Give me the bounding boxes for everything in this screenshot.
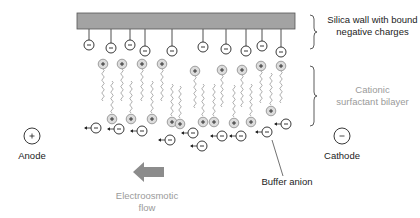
electrodes: [24, 128, 350, 144]
cationic-surfactant-head: [217, 65, 227, 75]
surfactant-tail: [213, 84, 215, 116]
surfactant-bilayer-brace: [310, 66, 317, 126]
surfactant-tail: [171, 84, 173, 116]
buffer-anion: [84, 123, 101, 133]
bound-negative-charge: [140, 46, 150, 56]
bound-negative-charge: [106, 43, 116, 53]
bound-negative-charge: [125, 40, 135, 50]
migration-arrow-head-icon: [181, 131, 184, 135]
bound-negative-charges: [84, 40, 286, 57]
buffer-anion: [158, 135, 175, 145]
cationic-surfactant-head: [276, 61, 286, 71]
cathode: [334, 128, 350, 144]
buffer-anion: [130, 126, 147, 136]
cationic-surfactant-head: [266, 106, 276, 116]
migration-arrow-head-icon: [274, 122, 277, 126]
buffer-anion-label: Buffer anion: [252, 176, 322, 188]
cationic-surfactant-head: [126, 114, 136, 124]
buffer-anion: [210, 131, 227, 141]
surfactant-tail: [194, 76, 196, 108]
surfactant-tail: [161, 69, 163, 101]
surfactant-tail: [241, 75, 243, 107]
surfactant-tail: [141, 69, 143, 101]
surfactant-tail: [260, 71, 262, 103]
silica-wall-label-line1: Silica wall with bound: [325, 14, 420, 26]
cationic-surfactant-head: [256, 61, 266, 71]
bound-negative-charge: [167, 46, 177, 56]
bound-negative-charge: [257, 41, 267, 51]
migration-arrow-head-icon: [255, 130, 258, 134]
buffer-anions: [84, 119, 291, 151]
bound-negative-charge: [221, 44, 231, 54]
cationic-surfactant-head: [190, 66, 200, 76]
silica-wall: [77, 13, 295, 29]
cationic-surfactant-head: [237, 65, 247, 75]
migration-arrow-head-icon: [130, 129, 133, 133]
cationic-surfactant-head: [107, 114, 117, 124]
cationic-surfactant-head: [117, 59, 127, 69]
migration-arrow-head-icon: [107, 127, 110, 131]
bound-negative-charge: [198, 42, 208, 52]
surfactant-tail: [221, 75, 223, 107]
migration-arrow-head-icon: [210, 134, 213, 138]
buffer-anion: [274, 119, 291, 129]
silica-wall-label: Silica wall with bound negative charges: [325, 14, 420, 38]
anode: [24, 128, 40, 144]
buffer-anion-pointer: [272, 140, 283, 176]
bound-charge-stems: [89, 29, 281, 47]
surfactant-tail: [202, 84, 204, 116]
surfactant-tail: [233, 85, 235, 117]
buffer-anion: [229, 131, 246, 141]
cationic-surfactant-head: [198, 117, 208, 127]
migration-arrow-head-icon: [190, 144, 193, 148]
cationic-surfactant-head: [137, 59, 147, 69]
cationic-surfactant-head: [157, 59, 167, 69]
surfactant-tail: [270, 73, 272, 105]
buffer-anion: [107, 124, 124, 134]
cationic-surfactant-head: [147, 114, 157, 124]
cationic-surfactant-head: [209, 117, 219, 127]
bound-negative-charge: [84, 40, 94, 50]
anode-label: Anode: [12, 150, 52, 162]
cationic-surfactant-head: [246, 117, 256, 127]
surfactant-tail: [179, 86, 181, 118]
surfactant-tail: [151, 81, 153, 113]
surfactant-tail: [111, 81, 113, 113]
cationic-surfactant-head: [98, 59, 108, 69]
cationic-surfactant-head: [229, 118, 239, 128]
migration-arrow-head-icon: [229, 134, 232, 138]
silica-wall-brace: [310, 15, 317, 49]
bound-negative-charge: [241, 46, 251, 56]
surfactant-label-line2: surfactant bilayer: [325, 96, 420, 108]
buffer-anion: [255, 127, 272, 137]
migration-arrow-head-icon: [84, 126, 87, 130]
surfactant-tails: [102, 69, 282, 118]
buffer-anion: [190, 141, 207, 151]
surfactant-tail: [250, 84, 252, 116]
silica-wall-label-line2: negative charges: [325, 26, 420, 38]
buffer-anion: [181, 128, 198, 138]
top-cationic-heads: [98, 59, 286, 76]
cathode-label: Cathode: [318, 150, 366, 162]
electroosmotic-flow-label: Electroosmotic flow: [112, 190, 182, 214]
surfactant-tail: [130, 81, 132, 113]
surfactant-tail: [280, 71, 282, 103]
surfactant-bilayer-label: Cationic surfactant bilayer: [325, 84, 420, 108]
eof-label-line2: flow: [112, 202, 182, 214]
bound-negative-charge: [276, 47, 286, 57]
surfactant-tail: [121, 69, 123, 101]
surfactant-tail: [102, 69, 104, 101]
cationic-surfactant-head: [175, 119, 185, 129]
surfactant-label-line1: Cationic: [325, 84, 420, 96]
migration-arrow-head-icon: [158, 138, 161, 142]
eof-label-line1: Electroosmotic: [112, 190, 182, 202]
electroosmotic-flow-arrow: [133, 162, 164, 182]
